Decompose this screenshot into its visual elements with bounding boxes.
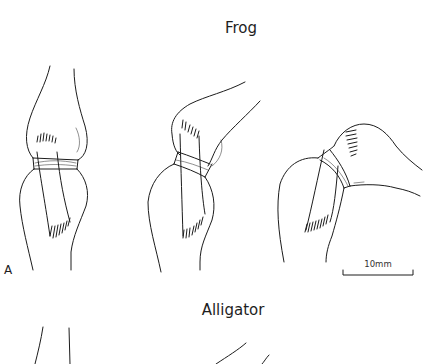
frog1-joint-right-edge [77,160,78,169]
frog2-femur-condyle [212,140,222,166]
frog2-tibia-left-outline [148,164,174,272]
frog1-hatching-femur [37,133,56,143]
frog1-joint-band-top [33,158,78,160]
frog1-joint-left-edge [33,158,34,169]
alligator2-bottom-outline [262,355,269,364]
frog1-joint-band-mid [35,161,76,163]
scale-bar-line [343,270,413,275]
frog2-joint-band-top [178,152,210,164]
frog3-femur-small-tick [354,182,364,183]
frog3-joint-tip [344,186,350,188]
frog-knee-partially-flexed [148,82,260,272]
frog3-hatching-tibia [305,215,328,232]
frog2-femur-top-outline [172,82,245,155]
anatomical-illustration [0,0,427,364]
frog2-hatching-femur [182,120,199,138]
alligator1-right-outline [69,328,70,364]
frog2-femur-bottom-outline [208,101,260,166]
alligator1-left-outline [35,327,43,364]
alligator2-top-outline [216,343,246,364]
frog2-hatching-tibia [183,217,203,238]
frog1-ligament-right [57,152,70,222]
frog1-hatching-tibia [50,218,70,238]
alligator-views [35,327,269,364]
frog1-tibia-outline [20,169,34,270]
frog1-femur-right-outline [74,69,87,160]
frog3-femur-bottom-outline [350,185,420,196]
frog3-femur-top-outline [334,124,422,170]
frog1-tibia-right-outline [71,169,88,270]
frog2-ligament-left [180,134,183,236]
frog1-joint-band-low [35,165,76,167]
frog2-joint-left-edge [174,152,178,164]
frog1-femur-condyle-notch [76,128,80,152]
frog-knee-extended [20,66,88,270]
frog1-femur-left-outline [26,66,50,158]
frog3-hatching-femur [346,130,357,156]
frog3-joint-band-d [330,150,350,186]
frog-knee-flexed [278,124,422,262]
frog3-ligament-right [330,166,338,222]
frog3-ligament-left [306,150,324,230]
scale-bar [343,270,413,275]
frog3-tibia-left-outline [278,158,318,262]
